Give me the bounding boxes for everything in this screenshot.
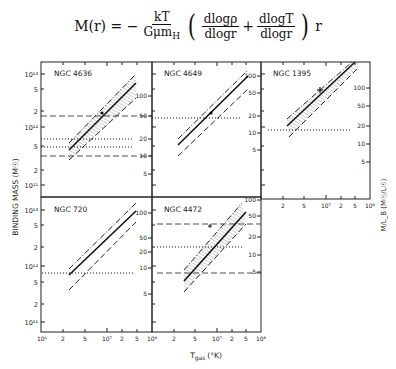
right-y-ticks (148, 76, 370, 294)
lower-line (69, 222, 136, 290)
svg-text:2: 2 (61, 335, 65, 342)
x-axis-title: Tgas(°K) (189, 351, 222, 362)
svg-text:20: 20 (139, 248, 147, 255)
upper-line (69, 74, 136, 143)
svg-text:5: 5 (135, 335, 139, 342)
x-axis-labels: 10⁶ 2 5 10⁷ 2 5 10⁸ 2 5 10⁷ 2 5 10⁸ 2 5 … (37, 202, 376, 342)
frame-ngc4649 (152, 62, 261, 197)
panel-title-ngc4472: NGC 4472 (164, 205, 202, 214)
best-fit-line (69, 83, 136, 150)
best-fit-line (69, 211, 136, 275)
svg-text:10¹¹: 10¹¹ (25, 182, 39, 190)
svg-text:5: 5 (143, 290, 147, 297)
panel-title-ngc720: NGC 720 (54, 205, 88, 214)
svg-text:10¹²: 10¹² (25, 124, 39, 132)
svg-text:2: 2 (281, 202, 285, 209)
svg-text:10⁷: 10⁷ (102, 335, 113, 342)
top-x-ticks (63, 62, 355, 66)
svg-text:5: 5 (252, 268, 256, 275)
svg-text:5: 5 (252, 146, 256, 153)
svg-text:10⁷: 10⁷ (212, 335, 223, 342)
lower-line (178, 89, 248, 156)
svg-text:10: 10 (139, 264, 147, 271)
svg-text:5: 5 (353, 202, 357, 209)
svg-text:5: 5 (34, 86, 38, 94)
lower-line (69, 98, 136, 160)
svg-text:100: 100 (136, 92, 148, 99)
svg-text:50: 50 (248, 89, 256, 96)
svg-text:10: 10 (357, 140, 365, 147)
data-point (209, 111, 212, 114)
svg-text:10⁸: 10⁸ (365, 202, 376, 209)
svg-text:10¹³: 10¹³ (25, 207, 39, 215)
panel-title-ngc4636: NGC 4636 (54, 69, 92, 78)
svg-text:2: 2 (230, 335, 234, 342)
svg-text:10⁷: 10⁷ (321, 202, 332, 209)
svg-text:10: 10 (248, 129, 256, 136)
panel-ngc4472-plot (157, 203, 261, 292)
svg-text:10: 10 (139, 152, 147, 159)
panel-title-ngc1395: NGC 1395 (273, 69, 311, 78)
svg-text:2: 2 (339, 202, 343, 209)
svg-text:10⁶: 10⁶ (37, 335, 48, 342)
svg-text:5: 5 (244, 335, 248, 342)
svg-text:50: 50 (139, 112, 147, 119)
panel-title-ngc4649: NGC 4649 (164, 69, 202, 78)
frame-ngc720 (41, 197, 152, 332)
svg-text:5: 5 (302, 202, 306, 209)
figure: 10¹³ 5 2 10¹² 5 2 10¹¹ 10¹³ 5 2 10¹² 5 2… (0, 0, 396, 369)
svg-text:10: 10 (248, 251, 256, 258)
svg-text:5: 5 (34, 279, 38, 287)
svg-text:5: 5 (143, 170, 147, 177)
svg-text:5: 5 (193, 335, 197, 342)
svg-text:100: 100 (354, 84, 366, 91)
data-point (100, 111, 103, 114)
left-y-ticks (41, 74, 265, 322)
best-fit-line (178, 76, 248, 145)
svg-text:2: 2 (172, 335, 176, 342)
svg-text:20: 20 (248, 233, 256, 240)
left-axis-labels: 10¹³ 5 2 10¹² 5 2 10¹¹ 10¹³ 5 2 10¹² 5 2… (25, 71, 39, 327)
y-axis-title-right: M/L_B (M☉/L☉) (380, 178, 388, 231)
panel-ngc720-plot (42, 203, 136, 290)
svg-text:2: 2 (34, 301, 38, 309)
svg-text:100: 100 (136, 209, 148, 216)
upper-line (178, 70, 248, 139)
svg-text:20: 20 (357, 122, 365, 129)
data-point (208, 224, 212, 228)
svg-text:10¹¹: 10¹¹ (25, 319, 39, 327)
svg-text:5: 5 (83, 335, 87, 342)
svg-text:50: 50 (357, 102, 365, 109)
svg-text:10⁸: 10⁸ (147, 335, 158, 342)
right-axis-labels: 100 50 20 10 5 100 50 20 10 5 100 50 20 … (136, 72, 366, 297)
svg-text:5: 5 (361, 158, 365, 165)
svg-text:10¹²: 10¹² (25, 263, 39, 271)
svg-text:50: 50 (139, 234, 147, 241)
panel-ngc4636-plot (41, 74, 152, 160)
svg-text:10¹³: 10¹³ (25, 71, 39, 79)
y-axis-title-left: BINDING MASS (M☉) (11, 158, 20, 235)
svg-text:2: 2 (34, 167, 38, 175)
svg-text:20: 20 (139, 135, 147, 142)
svg-text:2: 2 (34, 108, 38, 116)
svg-text:5: 5 (34, 222, 38, 230)
svg-text:5: 5 (34, 143, 38, 151)
svg-text:20: 20 (248, 112, 256, 119)
lower-line (289, 68, 358, 137)
svg-text:2: 2 (120, 335, 124, 342)
svg-text:50: 50 (248, 212, 256, 219)
panel-ngc4649-plot (152, 70, 248, 156)
svg-text:100: 100 (245, 196, 257, 203)
svg-text:2: 2 (34, 244, 38, 252)
svg-text:10⁸: 10⁸ (256, 335, 267, 342)
